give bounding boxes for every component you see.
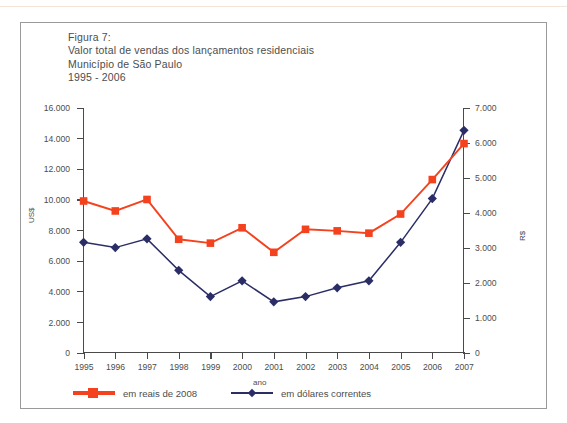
dolares-point-0 (79, 238, 88, 247)
reais-point-11 (429, 176, 437, 184)
reais-point-7 (302, 226, 310, 234)
legend-item-reais[interactable]: em reais de 2008 (73, 383, 197, 403)
reais-point-8 (333, 227, 341, 235)
dolares-point-1 (111, 243, 120, 252)
series-em-reais-de-2008 (80, 140, 468, 256)
series-canvas (21, 23, 548, 410)
reais-point-9 (365, 229, 373, 237)
legend-item-dolares[interactable]: em dólares correntes (231, 383, 371, 403)
reais-point-5 (238, 224, 246, 232)
dolares-point-6 (269, 297, 278, 306)
series-em-dolares-correntes (79, 126, 469, 307)
reais-line (84, 144, 464, 253)
dolares-point-7 (301, 292, 310, 301)
reais-point-2 (143, 196, 151, 204)
legend-marker-diamond (248, 389, 256, 397)
reais-point-4 (207, 239, 215, 247)
figure-frame: Figura 7: Valor total de vendas dos lanç… (20, 22, 547, 409)
page-top-rule (0, 6, 567, 7)
reais-point-12 (460, 140, 468, 148)
dolares-point-5 (238, 276, 247, 285)
legend-label-dolares: em dólares correntes (281, 388, 371, 399)
dolares-line (84, 130, 464, 302)
figure-page: Figura 7: Valor total de vendas dos lanç… (0, 0, 567, 423)
reais-point-10 (397, 210, 405, 218)
reais-point-1 (112, 207, 120, 215)
legend-marker-square (88, 388, 98, 398)
reais-point-3 (175, 235, 183, 243)
reais-point-0 (80, 197, 88, 205)
legend-label-reais: em reais de 2008 (123, 388, 197, 399)
reais-point-6 (270, 249, 278, 257)
dolares-point-12 (459, 126, 468, 135)
chart-legend: em reais de 2008 em dólares correntes (73, 383, 533, 407)
dolares-point-8 (333, 283, 342, 292)
plot-area: 0 2.000 4.000 6.000 8.000 10.000 12.000 … (21, 23, 548, 410)
